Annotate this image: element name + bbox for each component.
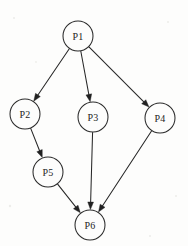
precedence-graph: P1P2P3P4P5P6 — [0, 0, 188, 246]
edge-p5-to-p6 — [58, 184, 81, 213]
arrowhead-icon — [37, 150, 42, 158]
edge-p4-to-p6 — [98, 131, 151, 212]
edge-p1-to-p4 — [89, 47, 149, 107]
arrowhead-icon — [88, 202, 94, 210]
edge-line — [91, 132, 93, 203]
node-p2[interactable]: P2 — [10, 99, 40, 129]
node-p1[interactable]: P1 — [63, 21, 93, 51]
edge-line — [81, 51, 89, 96]
arrowhead-icon — [34, 93, 41, 101]
node-p5[interactable]: P5 — [33, 157, 63, 187]
node-p3[interactable]: P3 — [78, 102, 108, 132]
node-p6[interactable]: P6 — [75, 210, 105, 240]
edge-line — [58, 184, 77, 208]
edge-line — [102, 131, 152, 207]
node-label: P5 — [43, 167, 54, 178]
arrowhead-icon — [73, 205, 80, 213]
edge-line — [89, 47, 145, 103]
node-label: P1 — [73, 31, 84, 42]
edge-p1-to-p2 — [34, 49, 70, 101]
arrowhead-icon — [98, 204, 105, 212]
node-label: P4 — [155, 113, 166, 124]
edge-p2-to-p5 — [31, 128, 43, 157]
arrowhead-icon — [86, 94, 92, 102]
node-p4[interactable]: P4 — [145, 103, 175, 133]
diagram-canvas: P1P2P3P4P5P6 — [0, 0, 188, 246]
node-label: P6 — [85, 220, 96, 231]
node-label: P3 — [88, 112, 99, 123]
node-layer: P1P2P3P4P5P6 — [10, 21, 175, 240]
node-label: P2 — [20, 109, 31, 120]
edge-line — [31, 128, 40, 152]
edge-p1-to-p3 — [81, 51, 92, 102]
edge-p3-to-p6 — [88, 132, 94, 209]
edge-line — [37, 49, 69, 96]
